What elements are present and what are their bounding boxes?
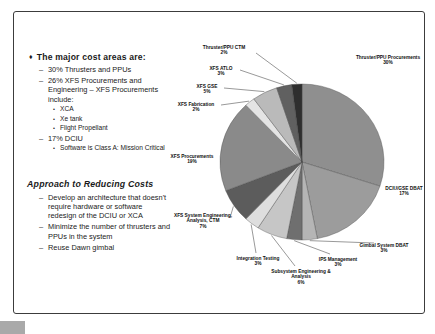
pie-slice-label-line: IPS Management bbox=[319, 257, 358, 262]
pie-slice-label-line: Gimbal System DBAT bbox=[360, 243, 409, 248]
pie-slice-label-line: XFS System Engineering, bbox=[174, 213, 233, 218]
pie-slice-percent: 2% bbox=[193, 107, 201, 112]
pie-slice-label-line: Thruster/PPU Procurements bbox=[356, 55, 421, 60]
pie-slice-label: DCIU/GSE DBAT17% bbox=[385, 186, 423, 197]
pie-slice-label-line: XFS ATLO bbox=[209, 66, 232, 71]
pie-slice-label: XFS ATLO3% bbox=[209, 66, 232, 77]
pie-slice-label: XFS Fabrication2% bbox=[178, 102, 215, 113]
pie-chart: Thruster/PPU Procurements30%DCIU/GSE DBA… bbox=[0, 0, 435, 334]
pie-slice-label-line: XFS Procurements bbox=[171, 154, 214, 159]
pie-label-leader-line bbox=[294, 241, 330, 254]
pie-slice-label-line: DCIU/GSE DBAT bbox=[385, 186, 423, 191]
pie-slice-percent: 3% bbox=[335, 262, 343, 267]
pie-slice-label-line: XFS Fabrication bbox=[178, 102, 215, 107]
pie-slice-label-line: Thruster/PPU CTM bbox=[203, 45, 245, 50]
pie-slice-label-line: Integration Testing bbox=[237, 256, 280, 261]
pie-label-leader-line bbox=[224, 88, 264, 92]
pie-slice-percent: 7% bbox=[200, 224, 208, 229]
pie-slice-label: Integration Testing3% bbox=[237, 256, 280, 267]
pie-slice-percent: 6% bbox=[298, 280, 306, 285]
screenshot-canvas: ♦ The major cost areas are: –30% Thruste… bbox=[0, 0, 435, 334]
pie-slice-label: Thruster/PPU Procurements30% bbox=[356, 55, 421, 66]
pie-slice-label: Subsystem Engineering &Analysis6% bbox=[271, 269, 331, 285]
pie-slice-label: XFS System Engineering,Analysis, CTM7% bbox=[174, 213, 233, 229]
bottom-left-gray-box bbox=[0, 321, 25, 334]
pie-label-leader-line bbox=[221, 101, 249, 105]
pie-slice-label: XFS GSE5% bbox=[197, 84, 219, 95]
pie-slice-label-line: Analysis bbox=[291, 274, 311, 279]
pie-label-leader-line bbox=[271, 235, 295, 266]
pie-slice-percent: 19% bbox=[187, 159, 197, 164]
pie-slice-percent: 17% bbox=[399, 191, 409, 196]
pie-slice-percent: 5% bbox=[204, 89, 212, 94]
pie-label-leader-line bbox=[240, 70, 284, 85]
pie-label-leader-line bbox=[251, 224, 256, 253]
pie-slice-percent: 30% bbox=[383, 60, 393, 65]
pie-slice-label: IPS Management3% bbox=[319, 257, 358, 268]
pie-slice-label-line: Analysis, CTM bbox=[187, 218, 220, 223]
pie-slice-label: Thruster/PPU CTM2% bbox=[203, 45, 245, 56]
pie-slice-percent: 3% bbox=[255, 261, 263, 266]
pie-slice-label: Gimbal System DBAT3% bbox=[360, 243, 409, 254]
pie-slice-label: XFS Procurements19% bbox=[171, 154, 214, 165]
pie-slice-percent: 3% bbox=[218, 71, 226, 76]
pie-slice-percent: 3% bbox=[381, 248, 389, 253]
pie-label-leader-line bbox=[256, 53, 297, 83]
pie-slice-label-line: Subsystem Engineering & bbox=[271, 269, 331, 274]
pie-slice-label-line: XFS GSE bbox=[197, 84, 219, 89]
pie-slice-percent: 2% bbox=[221, 50, 229, 55]
